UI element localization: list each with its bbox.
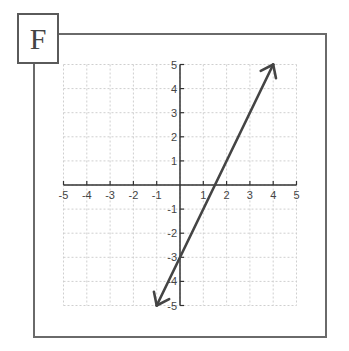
svg-text:2: 2 bbox=[224, 189, 230, 201]
svg-text:-3: -3 bbox=[105, 189, 115, 201]
svg-text:3: 3 bbox=[171, 107, 177, 119]
svg-text:-1: -1 bbox=[167, 203, 177, 215]
svg-text:5: 5 bbox=[171, 59, 177, 71]
svg-text:-5: -5 bbox=[167, 300, 177, 312]
svg-text:3: 3 bbox=[247, 189, 253, 201]
coordinate-plane: -5-4-3-2-11234554321-1-2-3-4-5 bbox=[0, 0, 349, 351]
svg-text:-2: -2 bbox=[167, 227, 177, 239]
svg-text:-1: -1 bbox=[152, 189, 162, 201]
svg-text:5: 5 bbox=[293, 189, 299, 201]
svg-text:2: 2 bbox=[171, 131, 177, 143]
svg-text:-2: -2 bbox=[129, 189, 139, 201]
svg-text:-4: -4 bbox=[82, 189, 92, 201]
svg-text:1: 1 bbox=[171, 155, 177, 167]
svg-text:-3: -3 bbox=[167, 251, 177, 263]
svg-text:1: 1 bbox=[200, 189, 206, 201]
axes bbox=[64, 65, 297, 306]
svg-text:-5: -5 bbox=[59, 189, 69, 201]
svg-text:4: 4 bbox=[171, 83, 177, 95]
svg-text:4: 4 bbox=[270, 189, 276, 201]
